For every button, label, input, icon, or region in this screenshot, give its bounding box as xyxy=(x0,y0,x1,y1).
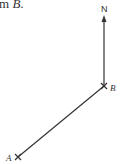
point-a-label: A xyxy=(5,153,12,163)
north-arrow-icon xyxy=(102,15,107,86)
line-a-to-b xyxy=(18,86,104,157)
point-b-label: B xyxy=(110,83,116,93)
point-a-cross-icon xyxy=(15,154,21,160)
north-label: N xyxy=(101,4,108,14)
bearing-diagram: N B A xyxy=(0,0,125,164)
